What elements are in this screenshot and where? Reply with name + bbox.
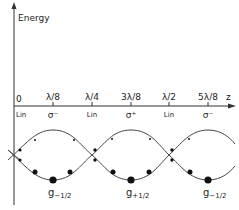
energy-axis-arrow-icon (12, 2, 17, 9)
polarization-2: Lin (87, 111, 97, 119)
tick-label-3lambda-8: 3λ/8 (121, 92, 141, 102)
z-axis-ticks (53, 102, 208, 106)
polarization-4: Lin (164, 111, 174, 119)
tick-label-lambda-2: λ/2 (162, 92, 176, 102)
polarization-5: σ⁻ (203, 110, 214, 120)
tick-label-lambda-4: λ/4 (85, 92, 99, 102)
energy-label: Energy (18, 13, 50, 23)
origin-label: 0 (16, 94, 22, 104)
z-label: z (226, 92, 231, 102)
tick-label-5lambda-8: 5λ/8 (198, 92, 218, 102)
population-dots (18, 138, 211, 184)
ground-state-label-1: g−1/2 (48, 187, 72, 200)
polarization-origin: Lin (16, 111, 26, 119)
polarization-1: σ⁻ (48, 110, 59, 120)
tick-label-lambda-8: λ/8 (46, 92, 60, 102)
ground-state-label-3: g−1/2 (203, 187, 227, 200)
polarization-3: σ⁺ (126, 110, 137, 120)
z-axis-arrow-icon (228, 104, 236, 109)
ground-state-label-2: g+1/2 (126, 187, 150, 200)
energy-curve-b (8, 130, 235, 180)
energy-curve-a (8, 130, 235, 180)
energy-diagram: Energy 0 z λ/8 λ/4 3λ/8 λ/2 5λ/8 Lin σ⁻ … (0, 0, 239, 210)
